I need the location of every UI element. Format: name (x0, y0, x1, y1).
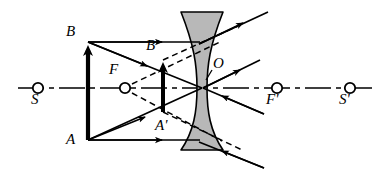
label-F-prime: F' (266, 92, 278, 107)
label-S: S (31, 92, 39, 107)
axis-point-F (120, 83, 130, 93)
label-S-prime: S' (339, 92, 350, 107)
label-A: A (66, 132, 75, 147)
incident-rays (88, 42, 202, 140)
diagram-canvas (0, 0, 380, 170)
label-O: O (213, 56, 224, 71)
label-B-prime: B' (146, 38, 158, 53)
label-F: F (109, 62, 118, 77)
label-A-prime: A' (155, 118, 167, 133)
label-B: B (66, 24, 75, 39)
ray-diagram-figure: S F F' S' O B A B' A' (0, 0, 380, 170)
